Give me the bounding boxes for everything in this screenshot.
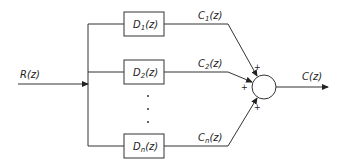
ellipsis-dot: [147, 95, 149, 97]
branch-2-output-label: C2(z): [198, 58, 223, 71]
sign-1: +: [254, 63, 261, 72]
branch-1: D1(z) C1(z) +: [88, 10, 261, 76]
ellipsis-dot: [147, 121, 149, 123]
summing-junction: [252, 75, 276, 99]
ellipsis: [147, 95, 149, 123]
sign-2: +: [241, 83, 248, 92]
output-label: C(z): [302, 71, 322, 82]
output-signal: C(z): [276, 71, 328, 87]
branch-2-output-line: [164, 72, 252, 82]
branch-n: Dn(z) Cn(z) +: [88, 98, 261, 158]
branch-n-output-label: Cn(z): [198, 132, 222, 145]
sign-n: +: [254, 103, 261, 112]
ellipsis-dot: [147, 108, 149, 110]
branch-1-output-label: C1(z): [198, 10, 223, 23]
input-signal: R(z): [18, 69, 88, 84]
branch-2: D2(z) C2(z) +: [88, 58, 252, 92]
block-diagram: R(z) D1(z) C1(z) + D2(z) C2(z) + Dn(z) C…: [0, 0, 343, 166]
input-label: R(z): [20, 69, 40, 80]
